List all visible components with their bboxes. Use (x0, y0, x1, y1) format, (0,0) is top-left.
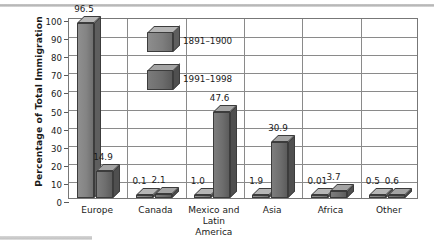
x-label-line1: Canada (126, 205, 184, 216)
plot-area: 96.514.90.12.11.047.61.930.90.013.70.50.… (68, 18, 418, 199)
legend-label-1: 1891–1900 (183, 37, 232, 46)
bar-front-face (194, 195, 211, 198)
legend-swatch-1 (147, 32, 173, 52)
x-label-0: Europe (68, 205, 126, 216)
x-label-4: Africa (301, 205, 359, 216)
gridline (69, 182, 417, 183)
bar-2-series-1 (194, 195, 211, 198)
bar-front-face (388, 195, 405, 198)
category-divider (186, 19, 187, 198)
legend-swatch-top (147, 64, 180, 71)
x-label-3: Asia (243, 205, 301, 216)
bar-1-series-2 (155, 194, 172, 198)
x-axis-category-labels: EuropeCanadaMexico andLatin AmericaAsiaA… (68, 205, 418, 241)
value-label-5-series-2: 0.6 (385, 177, 399, 186)
legend-swatch-front (147, 32, 173, 52)
gridline (69, 110, 417, 111)
bar-4-series-1 (311, 195, 328, 198)
category-divider (244, 19, 245, 198)
bar-3-series-1 (252, 195, 269, 198)
x-label-line1: Other (360, 205, 418, 216)
bar-front-face (96, 171, 113, 198)
bar-side-face (230, 105, 237, 198)
gridline (69, 55, 417, 56)
category-divider (361, 19, 362, 198)
legend-swatch-top (147, 26, 180, 33)
value-label-3-series-1: 1.9 (249, 177, 263, 186)
value-label-1-series-2: 2.1 (152, 176, 166, 185)
y-tick-70: 70 (30, 72, 62, 81)
y-tick-10: 10 (30, 181, 62, 190)
gridline (69, 91, 417, 92)
bar-front-face (271, 142, 288, 198)
bar-front-face (155, 194, 172, 198)
legend-label-2: 1991–1998 (183, 75, 232, 84)
bar-front-face (136, 195, 153, 198)
y-tick-90: 90 (30, 36, 62, 45)
bar-0-series-2 (96, 171, 113, 198)
x-label-2: Mexico andLatin America (185, 205, 243, 238)
x-label-line2: Latin America (185, 216, 243, 238)
x-label-line1: Africa (301, 205, 359, 216)
bar-4-series-2 (330, 191, 347, 198)
gridline (69, 128, 417, 129)
legend-swatch-side (173, 25, 180, 52)
y-tick-40: 40 (30, 127, 62, 136)
y-tick-50: 50 (30, 109, 62, 118)
x-label-1: Canada (126, 205, 184, 216)
gridline (69, 146, 417, 147)
value-label-4-series-2: 3.7 (327, 173, 341, 182)
bar-front-face (311, 195, 328, 198)
legend-swatch-side (173, 63, 180, 90)
y-tick-60: 60 (30, 90, 62, 99)
x-label-line1: Mexico and (185, 205, 243, 216)
bar-5-series-1 (369, 195, 386, 198)
y-tick-0: 0 (30, 199, 62, 208)
value-label-3-series-2: 30.9 (268, 124, 288, 133)
value-label-2-series-1: 1.0 (191, 177, 205, 186)
bar-3-series-2 (271, 142, 288, 198)
bar-1-series-1 (136, 195, 153, 198)
top-divider-rule (0, 4, 434, 7)
bar-front-face (213, 112, 230, 198)
bar-side-face (288, 135, 295, 198)
bar-2-series-2 (213, 112, 230, 198)
y-tick-100: 100 (30, 18, 62, 27)
bar-front-face (77, 23, 94, 198)
bar-5-series-2 (388, 195, 405, 198)
x-label-line1: Europe (68, 205, 126, 216)
y-tick-20: 20 (30, 163, 62, 172)
gridline (69, 37, 417, 38)
chart-legend: 1891–19001991–1998 (69, 19, 417, 198)
bar-front-face (252, 195, 269, 198)
y-tick-80: 80 (30, 54, 62, 63)
bar-0-series-1 (77, 23, 94, 198)
y-tick-30: 30 (30, 145, 62, 154)
value-label-4-series-1: 0.01 (308, 177, 328, 186)
x-label-5: Other (360, 205, 418, 216)
gridline (69, 73, 417, 74)
gridline (69, 164, 417, 165)
bar-front-face (330, 191, 347, 198)
category-divider (302, 19, 303, 198)
value-label-0-series-2: 14.9 (93, 153, 113, 162)
y-axis-tick-labels: 1009080706050403020100 (30, 14, 62, 204)
x-label-line1: Asia (243, 205, 301, 216)
category-divider (127, 19, 128, 198)
value-label-5-series-1: 0.5 (366, 177, 380, 186)
bar-front-face (369, 195, 386, 198)
value-label-1-series-1: 0.1 (133, 177, 147, 186)
value-label-2-series-2: 47.6 (210, 94, 230, 103)
value-label-0-series-1: 96.5 (74, 5, 94, 14)
